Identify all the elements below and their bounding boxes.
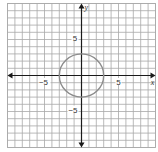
x-axis-label: x [150,78,155,87]
coordinate-plane: y x −5 5 5 −5 [0,0,158,152]
x-tick-label-neg5: −5 [39,78,49,87]
y-tick-label-5: 5 [73,34,78,43]
arrow-left-icon [8,73,13,79]
y-tick-label-neg5: −5 [68,106,78,115]
y-axis-label: y [84,3,89,12]
x-tick-label-5: 5 [116,78,121,87]
arrow-down-icon [79,143,85,148]
